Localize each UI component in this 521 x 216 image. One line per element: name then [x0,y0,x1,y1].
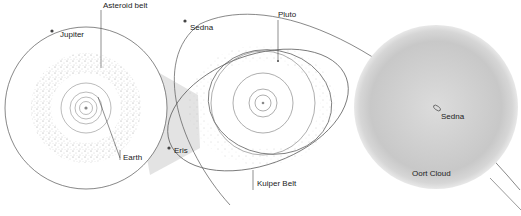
caption-outer: ▲ Outer solar system [381,214,459,216]
pluto-label: Pluto [278,10,297,19]
zoom-leader-lower [490,178,521,210]
solar-system-diagram: Jupiter Asteroid belt Earth Sedna Pluto … [0,0,521,216]
kuiper-belt-label: Kuiper Belt [257,179,297,188]
eris-label: Eris [174,146,188,155]
panel-outer-solar-system: Sedna Oort Cloud [354,25,521,210]
eris-dot [167,146,170,149]
asteroid-belt-label: Asteroid belt [103,1,148,10]
sun [84,106,87,109]
oort-cloud [354,25,518,189]
panel-central-solar-system: Jupiter Asteroid belt Earth [5,1,167,189]
caption-central: ▲ Central solar system [8,214,91,216]
jupiter-dot [50,29,53,32]
jupiter-label: Jupiter [60,30,84,39]
sun-small [262,102,265,105]
sedna-label-outer: Sedna [441,112,465,121]
sedna-label: Sedna [190,23,214,32]
oort-cloud-label: Oort Cloud [412,169,451,178]
sedna-dot [183,19,186,22]
caption-kuiper: ▲ The Kuiper Belt [193,214,259,216]
pluto-dot [277,60,279,62]
earth-label: Earth [123,153,142,162]
